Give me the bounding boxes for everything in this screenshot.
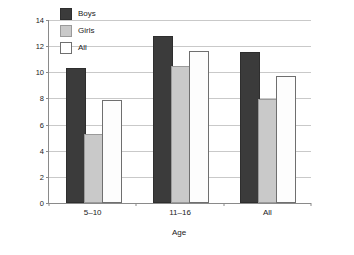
x-axis-tick-mark — [311, 203, 312, 206]
bar-group — [240, 20, 294, 203]
legend-label: All — [78, 43, 87, 52]
y-axis-tick-label: 8 — [40, 94, 44, 103]
y-axis-tick-label: 10 — [36, 68, 44, 77]
legend-swatch-icon — [60, 42, 72, 54]
bar-boys-3[interactable] — [240, 52, 260, 203]
y-axis-tick-label: 14 — [36, 16, 44, 25]
legend-label: Boys — [78, 9, 96, 18]
bar-all-1[interactable] — [102, 100, 122, 203]
y-axis-tick-label: 4 — [40, 146, 44, 155]
legend-item-all[interactable]: All — [60, 39, 130, 56]
x-axis-title: Age — [48, 228, 310, 237]
bar-chart: Percentage of children with a mental dis… — [0, 0, 354, 255]
bar-group — [153, 20, 207, 203]
legend-item-girls[interactable]: Girls — [60, 22, 130, 39]
x-axis-tick-label: All — [263, 208, 272, 217]
bar-girls-2[interactable] — [171, 66, 191, 203]
bar-all-3[interactable] — [276, 76, 296, 203]
chart-legend: BoysGirlsAll — [60, 5, 130, 56]
legend-item-boys[interactable]: Boys — [60, 5, 130, 22]
x-axis-tick-label: 5–10 — [84, 208, 102, 217]
y-axis-tick-label: 2 — [40, 172, 44, 181]
x-axis-tick-label: 11–16 — [169, 208, 191, 217]
bar-boys-1[interactable] — [66, 68, 86, 203]
x-axis-tick-mark — [49, 203, 50, 206]
legend-swatch-icon — [60, 25, 72, 37]
y-axis-tick-label: 12 — [36, 42, 44, 51]
legend-swatch-icon — [60, 8, 72, 20]
x-axis-tick-mark — [136, 203, 137, 206]
x-axis-tick-mark — [223, 203, 224, 206]
legend-label: Girls — [78, 26, 94, 35]
bar-all-2[interactable] — [189, 51, 209, 203]
y-axis-tick-label: 6 — [40, 120, 44, 129]
bar-girls-3[interactable] — [258, 99, 278, 203]
y-axis-tick-label: 0 — [40, 199, 44, 208]
bar-boys-2[interactable] — [153, 36, 173, 203]
bar-girls-1[interactable] — [84, 134, 104, 203]
